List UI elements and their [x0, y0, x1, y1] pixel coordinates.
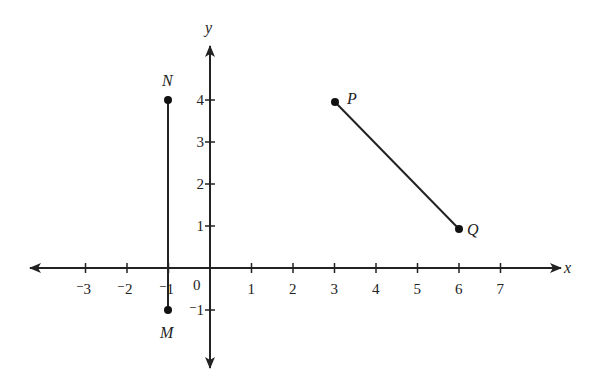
origin-label: 0	[193, 277, 201, 293]
y-tick-label: 1	[197, 218, 205, 234]
x-tick-label: ⁻1	[159, 281, 175, 297]
coordinate-plane: ⁻3⁻2⁻11234567 ⁻11234 x y 0 N M P Q	[0, 0, 590, 379]
y-axis-label: y	[203, 19, 213, 37]
x-tick-label: ⁻3	[76, 281, 92, 297]
y-tick-label: 3	[197, 134, 205, 150]
x-tick-label: 1	[248, 281, 256, 297]
x-tick-label: 5	[414, 281, 422, 297]
point-m	[164, 306, 172, 314]
x-tick-label: 7	[497, 281, 505, 297]
x-tick-label: 3	[331, 281, 339, 297]
point-label-n: N	[161, 72, 174, 89]
point-label-p: P	[346, 90, 357, 107]
x-tick-label: 2	[289, 281, 297, 297]
point-n	[164, 96, 172, 104]
x-tick-label: 4	[372, 281, 380, 297]
x-tick-label: 6	[455, 281, 463, 297]
x-axis-label: x	[563, 259, 571, 276]
point-p	[331, 98, 339, 106]
y-tick-label: ⁻1	[189, 302, 205, 318]
y-tick-label: 2	[197, 176, 205, 192]
x-tick-label: ⁻2	[117, 281, 133, 297]
y-tick-label: 4	[197, 92, 205, 108]
point-label-m: M	[159, 324, 175, 341]
segment-pq	[335, 102, 459, 229]
point-q	[455, 225, 463, 233]
point-label-q: Q	[467, 221, 479, 238]
